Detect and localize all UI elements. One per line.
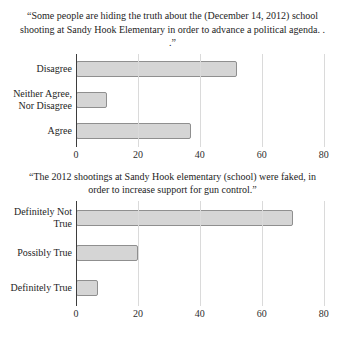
plot-scale xyxy=(76,54,333,147)
x-tick-label: 0 xyxy=(74,308,79,319)
x-tick-label: 40 xyxy=(195,308,205,319)
bar xyxy=(76,123,191,139)
plot-area xyxy=(76,54,345,147)
bar xyxy=(76,210,293,226)
bar-row xyxy=(76,271,333,306)
category-label: Disagree xyxy=(0,54,72,85)
chart-faked-shootings: Definitely Not TruePossibly TrueDefinite… xyxy=(0,201,345,322)
bar xyxy=(76,245,138,261)
figure: “Some people are hiding the truth about … xyxy=(0,0,345,322)
bar-row xyxy=(76,201,333,236)
bar xyxy=(76,92,107,108)
x-axis: 020406080 xyxy=(76,147,333,163)
chart-agree-disagree: DisagreeNeither Agree, Nor DisagreeAgree… xyxy=(0,54,345,163)
category-label: Definitely True xyxy=(0,271,72,306)
category-labels: Definitely Not TruePossibly TrueDefinite… xyxy=(0,201,76,306)
gridline xyxy=(200,201,201,306)
bar xyxy=(76,280,98,296)
bar xyxy=(76,61,237,77)
gridline xyxy=(262,201,263,306)
x-tick-label: 40 xyxy=(195,149,205,160)
chart-body: Definitely Not TruePossibly TrueDefinite… xyxy=(0,201,345,306)
x-tick-label: 20 xyxy=(133,308,143,319)
category-label: Agree xyxy=(0,116,72,147)
bar-row xyxy=(76,85,333,116)
x-tick-label: 20 xyxy=(133,149,143,160)
plot-area xyxy=(76,201,345,306)
plot-scale xyxy=(76,201,333,306)
y-axis-line xyxy=(76,54,77,147)
category-label: Neither Agree, Nor Disagree xyxy=(0,85,72,116)
y-axis-line xyxy=(76,201,77,306)
chart-title-faked-shootings: “The 2012 shootings at Sandy Hook elemen… xyxy=(20,170,326,197)
bar-row xyxy=(76,236,333,271)
x-tick-label: 80 xyxy=(319,308,329,319)
x-tick-label: 60 xyxy=(257,149,267,160)
bar-row xyxy=(76,54,333,85)
chart-body: DisagreeNeither Agree, Nor DisagreeAgree xyxy=(0,54,345,147)
bar-row xyxy=(76,116,333,147)
x-axis: 020406080 xyxy=(76,306,333,322)
category-label: Definitely Not True xyxy=(0,201,72,236)
gridline xyxy=(138,201,139,306)
category-labels: DisagreeNeither Agree, Nor DisagreeAgree xyxy=(0,54,76,147)
x-tick-label: 0 xyxy=(74,149,79,160)
gridline xyxy=(138,54,139,147)
gridline xyxy=(262,54,263,147)
x-tick-label: 60 xyxy=(257,308,267,319)
category-label: Possibly True xyxy=(0,236,72,271)
chart-title-agree-disagree: “Some people are hiding the truth about … xyxy=(20,9,326,50)
gridline xyxy=(324,54,325,147)
x-tick-label: 80 xyxy=(319,149,329,160)
gridline xyxy=(200,54,201,147)
gridline xyxy=(324,201,325,306)
